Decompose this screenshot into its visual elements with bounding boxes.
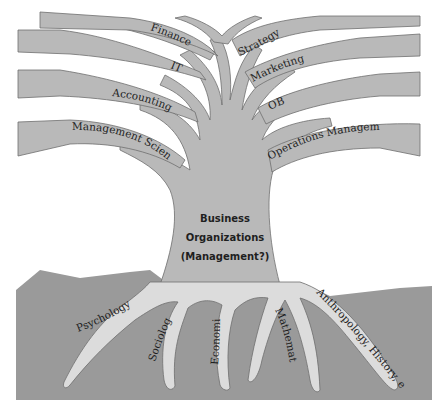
tree-diagram: Finance IT Accounting Management Science… [0, 0, 446, 415]
trunk-label-line1: Business [200, 213, 250, 224]
tree-trunk-and-branches [18, 12, 420, 285]
trunk-label-line3: (Management?) [181, 251, 270, 262]
trunk-label-line2: Organizations [186, 232, 265, 243]
